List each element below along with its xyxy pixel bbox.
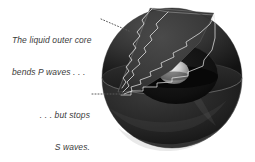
p-wave-caption: The liquid outer core bends P waves . . … — [12, 14, 92, 98]
p-wave-caption-line1: The liquid outer core — [12, 35, 92, 46]
s-wave-caption-line2: S waves. — [14, 142, 90, 153]
p-wave-caption-line2: bends P waves . . . — [12, 67, 92, 78]
s-wave-caption: . . . but stops S waves. — [14, 89, 90, 162]
earth-seismic-wave-figure: The liquid outer core bends P waves . . … — [0, 0, 255, 162]
s-wave-caption-line1: . . . but stops — [14, 110, 90, 121]
